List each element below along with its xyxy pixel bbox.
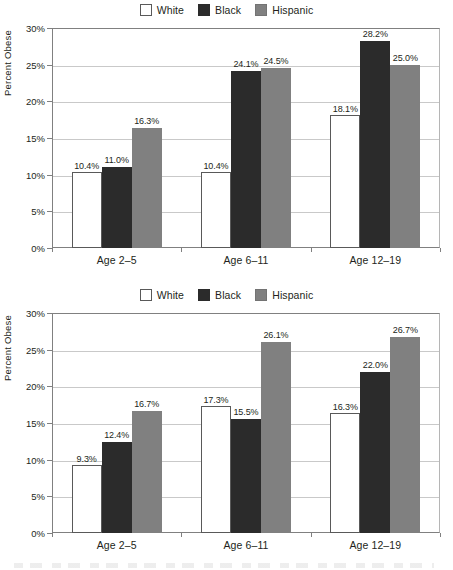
legend-swatch-hispanic [255,289,267,301]
y-tick-label-15: 15% [0,418,52,429]
x-axis-label-1: Age 6–11 [181,254,310,266]
x-axis-label-0: Age 2–5 [52,539,181,551]
x-axis-label-2: Age 12–19 [311,539,440,551]
legend-swatch-white [140,4,152,16]
bar-slot: 9.3% [72,313,102,533]
chart-bottom-x-labels: Age 2–5Age 6–11Age 12–19 [52,539,440,551]
bar-slot: 24.1% [231,28,261,248]
legend-swatch-black [198,4,210,16]
figure-page: White Black Hispanic Percent Obese 0%5%1… [0,0,453,570]
x-axis-label-1: Age 6–11 [181,539,310,551]
bar-slot: 22.0% [360,313,390,533]
y-tick-label-15: 15% [0,133,52,144]
legend-swatch-hispanic [255,4,267,16]
bar-black[interactable]: 28.2% [360,41,390,248]
bar-group: 17.3%15.5%26.1% [181,313,310,533]
bar-hispanic[interactable]: 24.5% [261,68,291,248]
bar-black[interactable]: 22.0% [360,372,390,533]
legend-label-hispanic: Hispanic [272,289,313,301]
y-tick-label-20: 20% [0,96,52,107]
y-tick-label-10: 10% [0,169,52,180]
bar-group: 18.1%28.2%25.0% [311,28,440,248]
bar-white[interactable]: 9.3% [72,465,102,533]
bar-value-label: 24.5% [263,56,288,66]
y-tick-label-5: 5% [0,491,52,502]
bar-white[interactable]: 10.4% [201,172,231,248]
legend-swatch-black [198,289,210,301]
chart-bottom-bar-groups: 9.3%12.4%16.7%17.3%15.5%26.1%16.3%22.0%2… [52,313,440,533]
bar-black[interactable]: 11.0% [102,167,132,248]
chart-top-x-labels: Age 2–5Age 6–11Age 12–19 [52,254,440,266]
y-tick-label-25: 25% [0,344,52,355]
y-tick-label-30: 30% [0,308,52,319]
page-footer-artifact [14,563,434,568]
bar-hispanic[interactable]: 16.7% [132,411,162,533]
legend-label-hispanic: Hispanic [272,4,313,16]
bar-slot: 15.5% [231,313,261,533]
bar-slot: 16.3% [330,313,360,533]
bar-value-label: 11.0% [104,155,128,165]
legend-item-hispanic: Hispanic [255,4,313,16]
bar-slot: 26.7% [390,313,420,533]
bar-black[interactable]: 12.4% [102,442,132,533]
legend-item-hispanic: Hispanic [255,289,313,301]
bar-value-label: 18.1% [333,104,358,114]
chart-top-bar-groups: 10.4%11.0%16.3%10.4%24.1%24.5%18.1%28.2%… [52,28,440,248]
legend-item-white: White [140,4,184,16]
bar-slot: 17.3% [201,313,231,533]
bar-value-label: 15.5% [233,407,258,417]
x-tick-mark [181,533,182,537]
y-tick-label-10: 10% [0,454,52,465]
y-tick-label-20: 20% [0,381,52,392]
x-tick-mark [52,533,53,537]
bar-slot: 25.0% [390,28,420,248]
bar-value-label: 12.4% [104,430,129,440]
bar-group: 9.3%12.4%16.7% [52,313,181,533]
chart-top: White Black Hispanic Percent Obese 0%5%1… [0,0,453,285]
legend-label-white: White [157,289,184,301]
bar-hispanic[interactable]: 26.1% [261,342,291,533]
bar-value-label: 24.1% [233,59,258,69]
bar-white[interactable]: 16.3% [330,413,360,533]
y-tick-label-0: 0% [0,243,52,254]
bar-value-label: 25.0% [393,53,418,63]
bar-black[interactable]: 15.5% [231,419,261,533]
bar-slot: 12.4% [102,313,132,533]
bar-slot: 18.1% [330,28,360,248]
bar-group: 10.4%24.1%24.5% [181,28,310,248]
x-tick-mark [311,533,312,537]
legend-item-white: White [140,289,184,301]
bar-slot: 16.3% [132,28,162,248]
legend-item-black: Black [198,4,241,16]
legend-swatch-white [140,289,152,301]
x-tick-mark [52,248,53,252]
bar-hispanic[interactable]: 16.3% [132,128,162,248]
bar-value-label: 16.3% [134,116,159,126]
chart-top-legend: White Black Hispanic [0,4,453,16]
y-tick-label-25: 25% [0,59,52,70]
bar-group: 16.3%22.0%26.7% [311,313,440,533]
legend-label-black: Black [215,4,241,16]
bar-black[interactable]: 24.1% [231,71,261,248]
bar-hispanic[interactable]: 25.0% [390,65,420,248]
bar-white[interactable]: 18.1% [330,115,360,248]
bar-slot: 10.4% [72,28,102,248]
bar-value-label: 17.3% [203,395,228,405]
bar-value-label: 26.7% [393,325,418,335]
x-tick-mark [311,248,312,252]
bar-slot: 16.7% [132,313,162,533]
legend-item-black: Black [198,289,241,301]
bar-value-label: 26.1% [263,330,288,340]
bar-hispanic[interactable]: 26.7% [390,337,420,533]
bar-white[interactable]: 10.4% [72,172,102,248]
bar-value-label: 16.3% [333,402,358,412]
bar-group: 10.4%11.0%16.3% [52,28,181,248]
bar-value-label: 10.4% [203,161,228,171]
bar-value-label: 22.0% [363,360,388,370]
x-axis-label-2: Age 12–19 [311,254,440,266]
bar-slot: 11.0% [102,28,132,248]
x-tick-mark [181,248,182,252]
y-tick-label-30: 30% [0,23,52,34]
chart-bottom-legend: White Black Hispanic [0,289,453,301]
bar-white[interactable]: 17.3% [201,406,231,533]
